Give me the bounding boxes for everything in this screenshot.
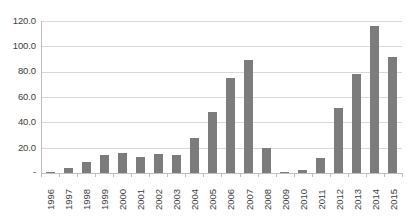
y-axis: 120.0 100.0 80.0 60.0 40.0 20.0 - (0, 0, 40, 221)
bar-slot (113, 21, 131, 173)
x-tick-label: 2010 (297, 181, 308, 219)
bar-slot (221, 21, 239, 173)
x-axis-slot: 2005 (203, 173, 221, 221)
bar[interactable] (136, 157, 145, 173)
x-tick-label: 2005 (207, 181, 218, 219)
x-tick-label: 2009 (279, 181, 290, 219)
x-axis-slot: 2010 (294, 173, 312, 221)
x-tick-label: 2000 (117, 181, 128, 219)
x-tick-label: 2001 (135, 181, 146, 219)
x-axis-slot: 2002 (149, 173, 167, 221)
x-axis-slot: 2011 (312, 173, 330, 221)
x-tick (384, 173, 385, 177)
bar[interactable] (226, 78, 235, 173)
x-tick-label: 2013 (351, 181, 362, 219)
x-tick-label: 2015 (387, 181, 398, 219)
x-tick (203, 173, 204, 177)
x-axis-slot: 2014 (366, 173, 384, 221)
x-tick-label: 1999 (99, 181, 110, 219)
x-axis-slot: 1997 (59, 173, 77, 221)
bar[interactable] (100, 155, 109, 173)
x-tick (366, 173, 367, 177)
x-axis-slot: 2007 (240, 173, 258, 221)
bar-slot (330, 21, 348, 173)
x-tick-label: 2014 (369, 181, 380, 219)
bar-slot (131, 21, 149, 173)
y-tick-label-120: 120.0 (13, 16, 36, 26)
bar-slot (59, 21, 77, 173)
bar[interactable] (82, 162, 91, 173)
bar-slot (276, 21, 294, 173)
x-axis-slot: 2006 (221, 173, 239, 221)
x-tick (185, 173, 186, 177)
y-tick-label-40: 40.0 (18, 117, 36, 127)
bar-slot (258, 21, 276, 173)
x-tick (77, 173, 78, 177)
x-tick-label: 1998 (81, 181, 92, 219)
bars-group (41, 21, 402, 173)
x-tick (240, 173, 241, 177)
x-tick-label: 2006 (225, 181, 236, 219)
x-tick (59, 173, 60, 177)
bar[interactable] (370, 26, 379, 173)
bar-slot (41, 21, 59, 173)
bar[interactable] (388, 57, 397, 173)
bar[interactable] (208, 112, 217, 173)
y-tick-label-20: 20.0 (18, 143, 36, 153)
x-tick (131, 173, 132, 177)
x-tick-label: 2004 (189, 181, 200, 219)
y-tick-label-0: - (33, 167, 36, 177)
x-tick-label: 1997 (63, 181, 74, 219)
x-tick (149, 173, 150, 177)
bar-slot (294, 21, 312, 173)
bar-slot (240, 21, 258, 173)
bar-slot (384, 21, 402, 173)
bar-slot (167, 21, 185, 173)
x-tick (348, 173, 349, 177)
y-tick-label-100: 100.0 (13, 41, 36, 51)
bar-slot (185, 21, 203, 173)
bar-slot (312, 21, 330, 173)
x-tick-label: 2011 (315, 181, 326, 219)
bar[interactable] (118, 153, 127, 173)
x-tick (294, 173, 295, 177)
x-axis-slot: 1998 (77, 173, 95, 221)
bar-slot (77, 21, 95, 173)
bar[interactable] (190, 138, 199, 173)
bar[interactable] (172, 155, 181, 173)
x-tick (330, 173, 331, 177)
x-axis-slot: 2001 (131, 173, 149, 221)
bar[interactable] (352, 74, 361, 173)
x-tick-label: 2003 (171, 181, 182, 219)
bar-slot (348, 21, 366, 173)
bar[interactable] (244, 60, 253, 173)
y-tick-label-60: 60.0 (18, 92, 36, 102)
bar[interactable] (334, 108, 343, 173)
bar-slot (366, 21, 384, 173)
x-tick (402, 173, 403, 177)
x-axis-slot: 2013 (348, 173, 366, 221)
x-tick (113, 173, 114, 177)
x-tick (41, 173, 42, 177)
bar[interactable] (316, 158, 325, 173)
bar-slot (149, 21, 167, 173)
plot-area (41, 21, 402, 173)
bar-chart: 120.0 100.0 80.0 60.0 40.0 20.0 - 199619… (0, 0, 407, 221)
x-tick (258, 173, 259, 177)
y-tick-label-80: 80.0 (18, 66, 36, 76)
x-axis-slot: 1996 (41, 173, 59, 221)
bar[interactable] (154, 154, 163, 173)
bar[interactable] (262, 148, 271, 173)
x-axis-slot: 2004 (185, 173, 203, 221)
x-axis-slot: 2015 (384, 173, 402, 221)
x-axis-slot: 2008 (258, 173, 276, 221)
x-axis: 1996199719981999200020012002200320042005… (41, 173, 402, 221)
x-axis-slot: 2000 (113, 173, 131, 221)
x-axis-slot: 1999 (95, 173, 113, 221)
x-tick (95, 173, 96, 177)
x-tick-label: 2012 (333, 181, 344, 219)
x-tick (167, 173, 168, 177)
x-tick (312, 173, 313, 177)
x-tick (276, 173, 277, 177)
bar-slot (95, 21, 113, 173)
